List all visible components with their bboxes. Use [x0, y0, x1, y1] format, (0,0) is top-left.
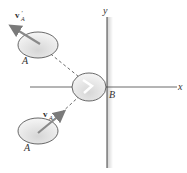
velocity-after-sub: A: [20, 16, 25, 22]
y-axis-label: y: [102, 5, 108, 16]
velocity-before-label: v: [43, 109, 48, 119]
wall-label-b: B: [109, 89, 115, 100]
ball-a-before-label: A: [23, 142, 31, 153]
collision-diagram: y x B A A v ′ A v A: [0, 0, 187, 173]
x-axis-label: x: [177, 81, 183, 92]
ball-a-after-label: A: [21, 55, 29, 66]
velocity-after-label: v: [15, 10, 20, 20]
velocity-before-sub: A: [48, 115, 53, 121]
